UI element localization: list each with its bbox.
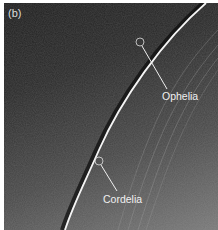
ring-image: (b) Ophelia Cordelia [4, 3, 218, 230]
cordelia-label: Cordelia [103, 193, 142, 205]
panel-label: (b) [8, 7, 21, 19]
ophelia-label: Ophelia [162, 90, 198, 102]
